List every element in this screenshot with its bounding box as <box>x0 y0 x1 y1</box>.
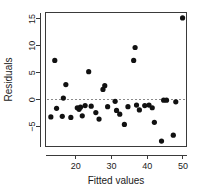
x-axis-title: Fitted values <box>88 175 145 186</box>
plot-panel <box>46 13 187 147</box>
data-point-5 <box>63 82 68 87</box>
y-axis-title: Residuals <box>3 58 14 102</box>
data-point-36 <box>173 99 178 104</box>
data-point-17 <box>102 83 107 88</box>
data-point-14 <box>93 110 98 115</box>
scatter-plot-canvas: 20304050−5051015Fitted valuesResiduals <box>0 0 197 192</box>
data-point-3 <box>60 114 65 119</box>
x-tick-label-30: 30 <box>107 161 117 171</box>
data-point-27 <box>137 107 142 112</box>
data-point-13 <box>89 104 94 109</box>
data-point-11 <box>83 103 88 108</box>
data-point-35 <box>171 133 176 138</box>
data-point-6 <box>68 115 73 120</box>
data-point-24 <box>131 58 136 63</box>
data-point-4 <box>61 95 66 100</box>
data-point-21 <box>117 112 122 117</box>
data-point-37 <box>180 15 185 20</box>
data-point-9 <box>78 105 83 110</box>
residuals-vs-fitted-plot: 20304050−5051015Fitted valuesResiduals <box>0 0 197 192</box>
y-tick-label-5: 5 <box>27 70 37 75</box>
data-point-15 <box>96 116 101 121</box>
data-point-10 <box>80 113 85 118</box>
data-point-34 <box>164 98 169 103</box>
x-tick-label-50: 50 <box>178 161 188 171</box>
x-tick-label-40: 40 <box>142 161 152 171</box>
data-point-30 <box>150 105 155 110</box>
data-point-22 <box>122 122 127 127</box>
data-point-19 <box>113 99 118 104</box>
y-tick-label-10: 10 <box>27 41 37 51</box>
data-point-layer <box>48 15 185 143</box>
data-point-25 <box>133 45 138 50</box>
x-tick-label-20: 20 <box>71 161 81 171</box>
data-point-2 <box>54 106 59 111</box>
plot-border <box>46 13 187 147</box>
data-point-1 <box>52 58 57 63</box>
y-tick-label--5: −5 <box>27 121 37 131</box>
data-point-0 <box>48 114 53 119</box>
data-point-18 <box>105 104 110 109</box>
y-tick-label-0: 0 <box>27 97 37 102</box>
data-point-32 <box>159 139 164 144</box>
y-tick-label-15: 15 <box>27 14 37 24</box>
data-point-31 <box>152 120 157 125</box>
data-point-23 <box>125 104 130 109</box>
data-point-12 <box>86 69 91 74</box>
data-point-26 <box>134 102 139 107</box>
axes-layer <box>36 13 187 160</box>
